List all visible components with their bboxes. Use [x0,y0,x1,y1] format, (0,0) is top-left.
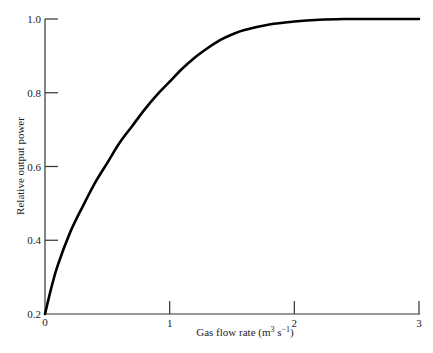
y-ticks: 0.20.40.60.81.0 [27,13,58,320]
data-line [45,19,419,314]
axes [45,19,420,314]
y-tick-label: 0.2 [27,308,41,320]
y-tick-label: 1.0 [27,13,41,25]
x-axis-title-sup2: −1 [282,325,291,334]
x-tick-label: 0 [42,316,48,328]
y-tick-label: 0.4 [27,234,41,246]
y-tick-label: 0.6 [27,161,41,173]
x-tick-label: 3 [416,317,422,329]
x-axis-title: Gas flow rate (m3 s−1) [196,325,294,339]
x-tick-label: 1 [167,317,173,329]
x-axis-title-end: ) [290,326,294,339]
x-axis-title-text: Gas flow rate (m [196,326,271,339]
x-axis-title-mid: s [275,326,282,338]
x-ticks: 0123 [42,301,422,329]
chart: 0.20.40.60.81.0 0123 Gas flow rate (m3 s… [0,0,433,353]
y-axis-title: Relative output power [14,117,26,215]
y-tick-label: 0.8 [27,87,41,99]
